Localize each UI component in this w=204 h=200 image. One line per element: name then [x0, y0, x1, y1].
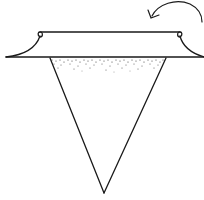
- stippling: [51, 59, 163, 72]
- cone-right-side: [104, 58, 166, 193]
- brim: [6, 32, 204, 57]
- cone-left-side: [50, 58, 104, 193]
- brim-right-flare: [180, 36, 204, 57]
- rotation-arrow-icon: [148, 2, 202, 22]
- diagram-canvas: [0, 0, 204, 200]
- brim-left-flare: [6, 36, 40, 57]
- cone-illustration: [0, 0, 204, 200]
- cone: [50, 58, 166, 193]
